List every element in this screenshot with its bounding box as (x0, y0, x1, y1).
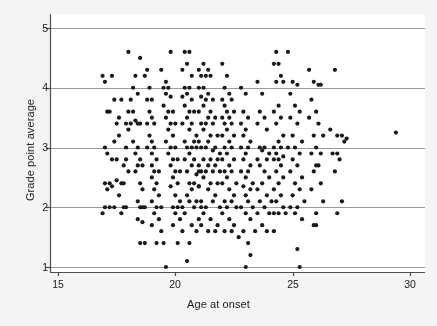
scatter-plot-figure: 5 4 3 2 1 15 20 25 30 Age at onset Grade… (0, 0, 437, 326)
x-tick-label-30: 30 (395, 278, 425, 290)
x-tick-label-20: 20 (160, 278, 190, 290)
x-axis-title: Age at onset (0, 298, 437, 310)
x-tick-label-15: 15 (43, 278, 73, 290)
x-tick-label-25: 25 (278, 278, 308, 290)
y-axis-title: Grade point average (24, 20, 36, 280)
